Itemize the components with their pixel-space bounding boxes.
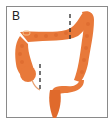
cecum xyxy=(20,66,36,82)
colon-illustration xyxy=(0,0,112,123)
appendix xyxy=(32,80,40,90)
transverse-colon xyxy=(20,12,90,42)
rectum xyxy=(49,90,61,118)
